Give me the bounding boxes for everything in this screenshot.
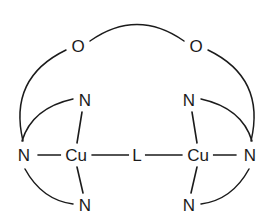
atom-label-n-right-outer: N xyxy=(244,146,256,165)
arc-bond-group xyxy=(20,25,254,205)
arc-o-left-to-n-left-outer xyxy=(20,50,66,141)
bond-cu-right-to-n-right-lower xyxy=(191,167,197,193)
atom-halo-group xyxy=(15,36,259,215)
arc-n-right-upper-to-n-right-outer xyxy=(201,99,252,141)
atom-label-n-right-lower: N xyxy=(183,196,195,215)
atom-label-n-left-outer: N xyxy=(18,146,30,165)
arc-n-right-outer-to-n-right-lower xyxy=(201,169,249,204)
atom-label-n-left-upper: N xyxy=(79,91,91,110)
bond-cu-left-to-n-left-lower xyxy=(77,167,83,193)
atom-label-o-left: O xyxy=(71,37,84,56)
atom-label-bridge-ligand: L xyxy=(132,146,141,165)
atom-label-group: Cu Cu L O O N N N N N N xyxy=(18,37,256,215)
atom-label-o-right: O xyxy=(189,37,202,56)
arc-o-left-to-o-right xyxy=(90,25,184,42)
atom-label-cu-left: Cu xyxy=(65,146,87,165)
arc-o-right-to-n-right-outer xyxy=(208,50,254,141)
arc-n-left-outer-to-n-left-lower xyxy=(25,169,73,204)
atom-label-n-left-lower: N xyxy=(79,196,91,215)
chemical-structure-diagram: Cu Cu L O O N N N N N N xyxy=(0,0,274,224)
atom-label-n-right-upper: N xyxy=(183,91,195,110)
arc-n-left-upper-to-n-left-outer xyxy=(22,99,73,141)
bond-n-right-upper-to-cu-right xyxy=(192,112,197,143)
structure-canvas: Cu Cu L O O N N N N N N xyxy=(0,0,274,224)
atom-label-cu-right: Cu xyxy=(187,146,209,165)
bond-n-left-upper-to-cu-left xyxy=(77,112,82,143)
